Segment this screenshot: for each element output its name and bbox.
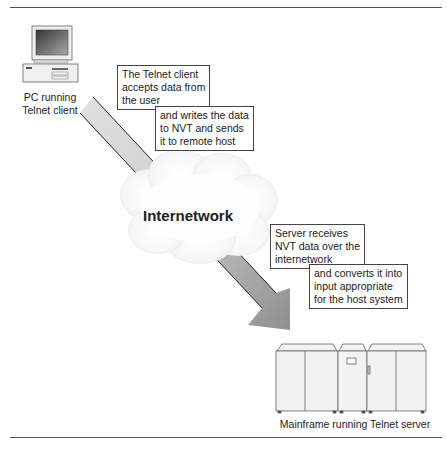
server-note-receives: Server receives NVT data over the intern… <box>270 224 365 269</box>
client-note-accepts: The Telnet client accepts data from the … <box>117 65 210 110</box>
server-note-converts: and converts it into input appropriate f… <box>309 264 408 309</box>
note-line: and converts it into <box>314 267 403 280</box>
mainframe-icon <box>276 344 426 413</box>
pc-label: PC running Telnet client <box>14 91 86 117</box>
client-note-writes: and writes the data to NVT and sends it … <box>155 106 254 151</box>
mainframe-label: Mainframe running Telnet server <box>270 418 440 431</box>
note-line: for the host system <box>314 293 403 306</box>
note-line: accepts data from <box>122 81 205 94</box>
pc-label-line2: Telnet client <box>14 104 86 117</box>
note-line: Server receives <box>275 227 360 240</box>
pc-icon <box>23 26 78 82</box>
pc-label-line1: PC running <box>14 91 86 104</box>
note-line: NVT data over the <box>275 240 360 253</box>
diagram-graphics <box>0 0 447 450</box>
note-line: to NVT and sends <box>160 122 249 135</box>
note-line: and writes the data <box>160 109 249 122</box>
note-line: input appropriate <box>314 280 403 293</box>
note-line: The Telnet client <box>122 68 205 81</box>
note-line: it to remote host <box>160 135 249 148</box>
internetwork-label: Internetwork <box>143 207 233 224</box>
